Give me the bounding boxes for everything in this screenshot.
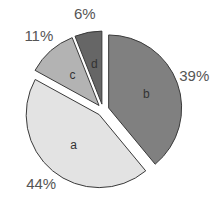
slice-label-d: d <box>91 57 98 71</box>
slice-label-c: c <box>69 68 75 82</box>
slice-label-a: a <box>70 138 77 152</box>
slice-percent-c: 11% <box>24 27 53 44</box>
slice-percent-d: 6% <box>74 5 96 22</box>
slice-percent-b: 39% <box>179 67 209 84</box>
slice-label-b: b <box>143 87 150 101</box>
slice-percent-a: 44% <box>26 175 56 192</box>
pie-chart: b39%a44%c11%d6% <box>0 0 224 204</box>
